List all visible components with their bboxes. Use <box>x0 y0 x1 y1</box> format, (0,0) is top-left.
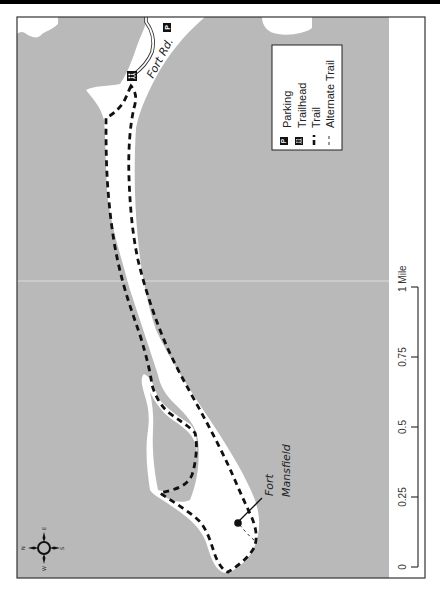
fort-mansfield-label-line2: Mansfield <box>280 443 293 497</box>
scale-tick-0: 0 <box>397 564 408 570</box>
compass-s: S <box>59 547 65 550</box>
trailhead-marker[interactable] <box>127 71 137 81</box>
legend-label-parking: Parking <box>281 91 293 128</box>
trailhead-icon <box>295 137 303 145</box>
compass-e: E <box>41 527 47 530</box>
parking-marker[interactable]: P <box>163 23 171 32</box>
scale-tick-0-25: 0.25 <box>397 487 408 507</box>
trail-map[interactable]: Fort Mansfield Fort Rd. P P Parking <box>0 0 440 591</box>
legend-label-trail: Trail <box>310 107 322 128</box>
scale-tick-1-mile: 1 Mile <box>397 265 408 292</box>
compass-w: W <box>41 566 47 571</box>
fort-mansfield-marker[interactable] <box>234 519 242 527</box>
scale-tick-0-5: 0.5 <box>397 420 408 434</box>
parking-icon: P <box>280 137 288 145</box>
legend-label-trailhead: Trailhead <box>296 83 308 128</box>
svg-text:P: P <box>164 25 171 30</box>
svg-text:P: P <box>280 138 287 143</box>
legend: P Parking Trailhead Trail <box>272 45 342 150</box>
legend-label-alternate-trail: Alternate Trail <box>324 60 336 128</box>
scale-tick-0-75: 0.75 <box>397 347 408 367</box>
compass-n: N <box>20 546 26 550</box>
fort-mansfield-label-line1: Fort <box>263 473 276 496</box>
